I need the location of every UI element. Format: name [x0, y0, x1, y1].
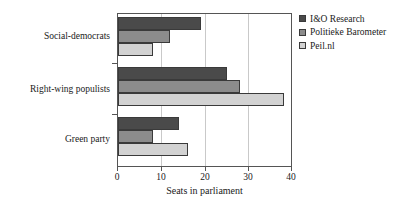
bar-chart: Social-democrats Right-wing populists Gr…: [0, 0, 419, 204]
x-axis-tick-label-20: 20: [193, 172, 217, 182]
bar-social-democrats-io-research[interactable]: [118, 17, 201, 30]
x-axis-tick: [117, 167, 118, 171]
bar-row: [118, 17, 291, 30]
bar-group-social-democrats: [118, 17, 291, 56]
legend-label: Politieke Barometer: [310, 27, 386, 37]
legend-label: I&O Research: [310, 14, 365, 24]
bar-row: [118, 80, 291, 93]
bar-group-green-party: [118, 117, 291, 156]
legend-item-io-research[interactable]: I&O Research: [299, 12, 386, 26]
y-axis-tick: [112, 63, 117, 64]
category-label-right-wing-populists: Right-wing populists: [0, 84, 110, 94]
x-axis-tick: [291, 167, 292, 171]
legend-swatch-icon: [299, 42, 306, 49]
legend-label: Peil.nl: [310, 41, 335, 51]
bar-row: [118, 30, 291, 43]
x-axis-tick-label-0: 0: [105, 172, 129, 182]
bar-row: [118, 130, 291, 143]
x-axis-tick-label-30: 30: [236, 172, 260, 182]
bar-social-democrats-peil-nl[interactable]: [118, 43, 153, 56]
legend-item-politieke-barometer[interactable]: Politieke Barometer: [299, 26, 386, 40]
bar-row: [118, 143, 291, 156]
bar-social-democrats-politieke-barometer[interactable]: [118, 30, 170, 43]
bar-row: [118, 117, 291, 130]
bar-green-party-peil-nl[interactable]: [118, 143, 188, 156]
bar-right-wing-populists-peil-nl[interactable]: [118, 93, 284, 106]
legend-swatch-icon: [299, 15, 306, 22]
bar-green-party-politieke-barometer[interactable]: [118, 130, 153, 143]
bar-green-party-io-research[interactable]: [118, 117, 179, 130]
bar-row: [118, 67, 291, 80]
legend-swatch-icon: [299, 29, 306, 36]
bar-right-wing-populists-politieke-barometer[interactable]: [118, 80, 240, 93]
x-axis-tick: [205, 167, 206, 171]
bar-row: [118, 43, 291, 56]
bar-row: [118, 93, 291, 106]
category-label-social-democrats: Social-democrats: [0, 31, 110, 41]
bar-group-right-wing-populists: [118, 67, 291, 106]
x-axis-tick: [161, 167, 162, 171]
legend-item-peil-nl[interactable]: Peil.nl: [299, 39, 386, 53]
x-axis-tick: [248, 167, 249, 171]
category-label-green-party: Green party: [0, 134, 110, 144]
y-axis-tick: [112, 114, 117, 115]
legend: I&O Research Politieke Barometer Peil.nl: [299, 12, 386, 53]
plot-area: [117, 13, 292, 167]
bar-right-wing-populists-io-research[interactable]: [118, 67, 227, 80]
x-axis-tick-label-10: 10: [149, 172, 173, 182]
x-axis-tick-label-40: 40: [279, 172, 303, 182]
x-axis-label: Seats in parliament: [117, 185, 292, 196]
